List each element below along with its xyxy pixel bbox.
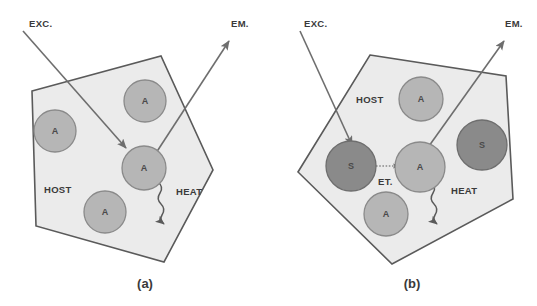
excitation-label-b: EXC. [304, 18, 327, 29]
panel-caption-a: (a) [137, 276, 153, 291]
excitation-label-a: EXC. [29, 18, 52, 29]
emission-label-a: EM. [231, 18, 249, 29]
ion-b-top: A [399, 77, 443, 121]
ion-symbol: A [141, 163, 148, 173]
ion-symbol: A [383, 209, 390, 219]
ion-a-top: A [124, 80, 166, 122]
ion-a-left: A [34, 110, 76, 152]
heat-label-a: HEAT [176, 186, 202, 197]
panel-a: A A A A EXC. EM. HOST HEAT (a) [23, 18, 249, 291]
ion-b-bottom: A [364, 192, 408, 236]
ion-b-right-sensitizer: S [457, 120, 507, 170]
ion-symbol: A [417, 162, 424, 172]
host-lattice-polygon-a [32, 56, 213, 262]
ion-symbol: A [102, 207, 109, 217]
panel-caption-b: (b) [404, 276, 421, 291]
ion-a-center: A [122, 146, 166, 190]
ion-symbol: S [479, 140, 485, 150]
ion-b-center: A [395, 142, 445, 192]
ion-symbol: A [52, 126, 59, 136]
energy-transfer-label-b: ET. [378, 176, 393, 187]
ion-symbol: A [418, 94, 425, 104]
ion-a-bottom: A [84, 191, 126, 233]
host-label-b: HOST [356, 94, 384, 105]
ion-symbol: A [142, 96, 149, 106]
ion-symbol: S [348, 161, 354, 171]
ion-b-left-sensitizer: S [326, 141, 376, 191]
panel-b: A S A S A EXC. EM. HOST ET. [298, 18, 523, 291]
heat-label-b: HEAT [451, 185, 477, 196]
emission-label-b: EM. [505, 18, 523, 29]
luminescence-mechanism-figure: A A A A EXC. EM. HOST HEAT (a) [0, 0, 537, 306]
host-label-a: HOST [44, 184, 72, 195]
